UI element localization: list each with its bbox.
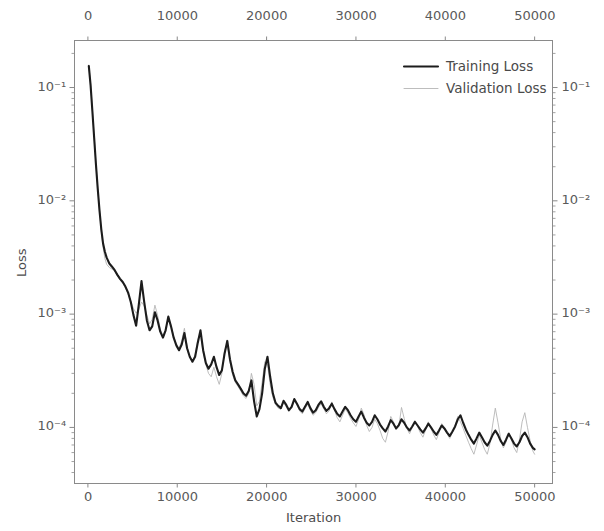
xtick-label-bottom: 30000 — [335, 489, 376, 504]
ytick-label-right: 10⁻³ — [562, 305, 591, 320]
ytick-label-right: 10⁻⁴ — [562, 418, 591, 433]
xtick-label-top: 30000 — [335, 8, 376, 23]
xtick-label-top: 50000 — [514, 8, 555, 23]
ytick-label-left: 10⁻² — [38, 192, 67, 207]
xtick-label-top: 40000 — [425, 8, 466, 23]
ytick-label-right: 10⁻¹ — [562, 79, 591, 94]
xtick-label-bottom: 50000 — [514, 489, 555, 504]
ytick-label-right: 10⁻² — [562, 192, 591, 207]
xtick-label-top: 0 — [84, 8, 92, 23]
xtick-label-bottom: 0 — [84, 489, 92, 504]
ytick-label-left: 10⁻⁴ — [38, 418, 67, 433]
xtick-label-bottom: 10000 — [157, 489, 198, 504]
xtick-label-top: 10000 — [157, 8, 198, 23]
xtick-label-bottom: 20000 — [246, 489, 287, 504]
ytick-label-left: 10⁻³ — [38, 305, 67, 320]
legend-entry-training-loss: Training Loss — [446, 58, 533, 74]
figure: 0 10000 20000 30000 40000 50000 0 10000 … — [0, 0, 604, 531]
plot-frame — [75, 41, 553, 484]
legend-entry-validation-loss: Validation Loss — [446, 80, 547, 96]
xtick-label-bottom: 40000 — [425, 489, 466, 504]
x-axis-title: Iteration — [286, 510, 341, 525]
ytick-label-left: 10⁻¹ — [38, 79, 67, 94]
xtick-label-top: 20000 — [246, 8, 287, 23]
y-axis-title: Loss — [14, 248, 29, 277]
